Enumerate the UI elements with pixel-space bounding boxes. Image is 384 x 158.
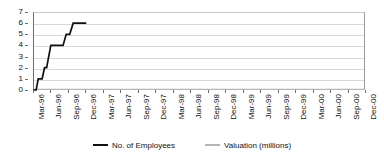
x-tick-mark (50, 90, 51, 93)
legend-item-employees: No. of Employees (93, 141, 175, 150)
x-tick-mark (120, 90, 121, 93)
y-tick-mark (25, 34, 28, 35)
x-tick-label: Jun-00 (334, 94, 343, 118)
x-tick-label: Dec-97 (159, 94, 168, 120)
series-line-employees (33, 23, 86, 90)
x-tick-label: Mar-00 (317, 94, 326, 119)
x-tick-mark (138, 90, 139, 93)
x-tick-label: Sep-96 (72, 94, 81, 120)
x-tick-mark (173, 90, 174, 93)
x-tick-label: Dec-96 (89, 94, 98, 120)
legend-swatch-valuation-icon (205, 144, 220, 146)
series-layer (33, 12, 365, 90)
x-tick-mark (33, 90, 34, 93)
x-tick-label: Jun-98 (194, 94, 203, 118)
x-tick-mark (260, 90, 261, 93)
x-tick-label: Sep-99 (282, 94, 291, 120)
x-tick-label: Dec-98 (229, 94, 238, 120)
legend-swatch-employees-icon (93, 144, 108, 146)
y-tick-label: 6 (19, 19, 23, 27)
x-tick-label: Mar-96 (37, 94, 46, 119)
y-tick-label: 2 (19, 64, 23, 72)
y-tick-label: 3 (19, 53, 23, 61)
chart-legend: No. of Employees Valuation (millions) (0, 138, 384, 152)
x-tick-label: Jun-97 (124, 94, 133, 118)
y-tick-mark (25, 68, 28, 69)
y-tick-label: 4 (19, 41, 23, 49)
x-tick-label: Mar-98 (177, 94, 186, 119)
y-tick-mark (25, 57, 28, 58)
y-tick-label: 0 (19, 86, 23, 94)
x-tick-label: Sep-97 (142, 94, 151, 120)
x-tick-mark (155, 90, 156, 93)
x-tick-mark (313, 90, 314, 93)
x-tick-mark (348, 90, 349, 93)
x-tick-mark (208, 90, 209, 93)
y-tick-mark (25, 45, 28, 46)
x-tick-label: Mar-99 (247, 94, 256, 119)
y-tick-label: 5 (19, 30, 23, 38)
x-tick-mark (243, 90, 244, 93)
legend-label-valuation: Valuation (millions) (224, 141, 291, 150)
x-axis-labels: Mar-96Jun-96Sep-96Dec-96Mar-97Jun-97Sep-… (33, 94, 365, 134)
x-tick-mark (295, 90, 296, 93)
x-tick-label: Jun-96 (54, 94, 63, 118)
y-tick-mark (25, 79, 28, 80)
chart-container: 01234567 Mar-96Jun-96Sep-96Dec-96Mar-97J… (0, 0, 384, 158)
y-tick-mark (25, 23, 28, 24)
x-tick-label: Dec-99 (299, 94, 308, 120)
x-tick-mark (68, 90, 69, 93)
legend-item-valuation: Valuation (millions) (205, 141, 291, 150)
x-tick-mark (190, 90, 191, 93)
x-tick-mark (225, 90, 226, 93)
x-tick-mark (103, 90, 104, 93)
series-svg (33, 12, 365, 90)
x-tick-label: Sep-00 (352, 94, 361, 120)
y-tick-mark (25, 12, 28, 13)
y-tick-mark (25, 90, 28, 91)
x-tick-mark (365, 90, 366, 93)
x-tick-label: Dec-00 (369, 94, 378, 120)
y-tick-label: 1 (19, 75, 23, 83)
x-tick-label: Sep-98 (212, 94, 221, 120)
x-tick-mark (85, 90, 86, 93)
y-tick-label: 7 (19, 8, 23, 16)
x-tick-mark (278, 90, 279, 93)
legend-label-employees: No. of Employees (112, 141, 175, 150)
x-tick-mark (330, 90, 331, 93)
x-tick-label: Mar-97 (107, 94, 116, 119)
x-tick-label: Jun-99 (264, 94, 273, 118)
y-axis: 01234567 (0, 12, 28, 90)
